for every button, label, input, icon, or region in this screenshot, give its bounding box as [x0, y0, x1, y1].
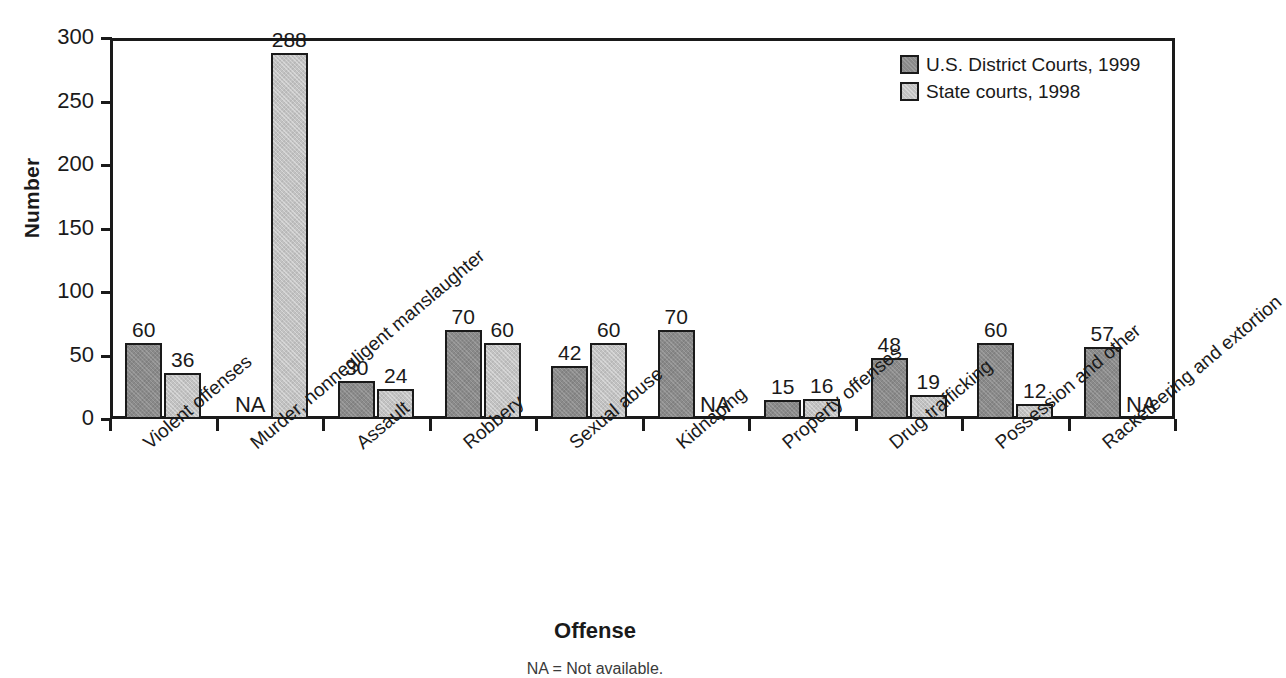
bar-value-label: 288 [257, 28, 322, 52]
bar-value-label: 36 [150, 348, 215, 372]
bar-value-label: 24 [363, 364, 428, 388]
y-tick-label: 200 [57, 151, 94, 177]
x-tick-mark [216, 419, 219, 431]
x-tick-mark [429, 419, 432, 431]
legend-item-0: U.S. District Courts, 1999 [900, 52, 1140, 77]
y-tick-label: 50 [70, 342, 94, 368]
bar-value-label: 60 [111, 318, 176, 342]
y-tick-label: 150 [57, 215, 94, 241]
legend-label-series0: U.S. District Courts, 1999 [926, 54, 1140, 76]
bar [445, 330, 482, 419]
chart-footnote: NA = Not available. [0, 660, 1190, 678]
legend-swatch-icon-series1 [900, 82, 919, 101]
y-tick-label: 0 [82, 405, 94, 431]
bar-value-label: 60 [576, 318, 641, 342]
x-tick-mark [109, 419, 112, 431]
bar [764, 400, 801, 419]
x-tick-mark [535, 419, 538, 431]
legend-swatch-icon-series0 [900, 55, 919, 74]
na-label: NA [225, 392, 276, 418]
x-tick-mark [322, 419, 325, 431]
y-tick-label: 100 [57, 278, 94, 304]
x-tick-mark [855, 419, 858, 431]
bar-value-label: 60 [470, 318, 535, 342]
legend: U.S. District Courts, 1999 State courts,… [900, 52, 1140, 106]
legend-label-series1: State courts, 1998 [926, 81, 1080, 103]
y-tick-label: 300 [57, 24, 94, 50]
x-axis-title: Offense [0, 618, 1190, 644]
x-tick-mark [748, 419, 751, 431]
legend-item-1: State courts, 1998 [900, 79, 1140, 104]
x-tick-mark [961, 419, 964, 431]
y-tick-label: 250 [57, 88, 94, 114]
bar [271, 53, 308, 419]
y-axis-title: Number [20, 128, 44, 268]
bar [551, 366, 588, 419]
x-tick-mark [1068, 419, 1071, 431]
bar-value-label: 70 [644, 305, 709, 329]
x-tick-mark [642, 419, 645, 431]
bar-value-label: 60 [963, 318, 1028, 342]
x-tick-mark [1174, 419, 1177, 431]
